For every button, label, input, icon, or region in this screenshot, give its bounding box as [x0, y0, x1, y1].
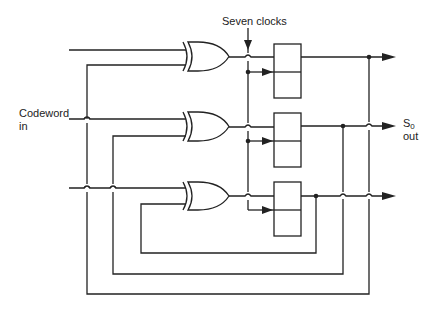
circuit-svg: [0, 0, 441, 317]
register-output-wires: [301, 53, 396, 200]
input-label-line2: in: [19, 120, 28, 133]
register-2: [274, 113, 301, 167]
xor-gate-1: [183, 42, 229, 71]
gate-output-wires: [229, 55, 274, 196]
output-label-line2: out: [403, 130, 418, 143]
feedback-wires: [87, 65, 369, 294]
clock-label: Seven clocks: [222, 15, 287, 28]
syndrome-circuit-diagram: Seven clocks Codeword in S0 out: [0, 0, 441, 317]
hop-masks: [84, 115, 116, 192]
xor-gate-2: [183, 112, 229, 141]
register-1: [274, 44, 301, 98]
input-label-line1: Codeword: [19, 107, 69, 120]
register-3: [274, 182, 301, 236]
clock-bus: [244, 28, 274, 214]
xor-gate-3: [183, 182, 229, 210]
